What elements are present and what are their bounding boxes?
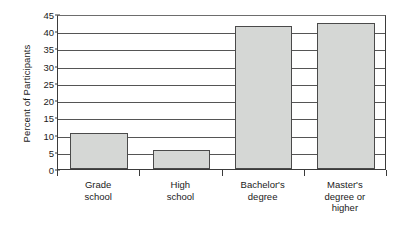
x-axis-category-label: Gradeschool — [57, 179, 139, 202]
x-axis-label-line: Bachelor's — [222, 179, 304, 191]
x-axis-label-line: higher — [304, 202, 386, 214]
bar — [317, 23, 375, 169]
x-axis-label-line: Master's — [304, 179, 386, 191]
x-axis-tick-mark — [222, 170, 223, 176]
y-axis-tick-label: 40 — [28, 27, 54, 38]
y-axis-tick-label: 30 — [28, 61, 54, 72]
y-axis-tick-labels: 051015202530354045 — [24, 15, 54, 170]
x-axis-tick-mark — [386, 170, 387, 176]
x-axis-label-line: school — [139, 191, 221, 203]
x-axis-label-line: degree — [222, 191, 304, 203]
x-axis-label-line: degree or — [304, 191, 386, 203]
bar — [70, 133, 128, 170]
x-axis-label-line: High — [139, 179, 221, 191]
y-axis-tick-label: 10 — [28, 130, 54, 141]
y-axis-tick-label: 20 — [28, 96, 54, 107]
x-axis-category-label: Bachelor'sdegree — [222, 179, 304, 202]
bar — [153, 150, 211, 169]
x-axis-label-line: school — [57, 191, 139, 203]
y-axis-tick-label: 45 — [28, 10, 54, 21]
y-axis-tick-label: 15 — [28, 113, 54, 124]
y-axis-tick-label: 5 — [28, 147, 54, 158]
y-axis-tick-label: 25 — [28, 78, 54, 89]
y-axis-tick-label: 35 — [28, 44, 54, 55]
x-axis-label-line: Grade — [57, 179, 139, 191]
bar — [235, 26, 293, 169]
x-axis-tick-mark — [304, 170, 305, 176]
x-axis-tick-mark — [139, 170, 140, 176]
bar-chart: Percent of Participants 0510152025303540… — [0, 0, 404, 226]
y-axis-tick-label: 0 — [28, 165, 54, 176]
x-axis-category-label: Master'sdegree orhigher — [304, 179, 386, 214]
x-axis-tick-mark — [57, 170, 58, 176]
x-axis-category-label: Highschool — [139, 179, 221, 202]
plot-area — [57, 15, 386, 170]
